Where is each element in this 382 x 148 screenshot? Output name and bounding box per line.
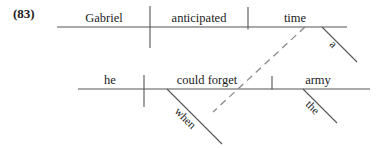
example-number: (83)	[13, 6, 35, 22]
sentence-diagram: (83) Gabriel anticipated time a he could…	[0, 0, 382, 148]
modifier-a-slant-line	[322, 27, 357, 62]
word-verb-main: anticipated	[172, 11, 227, 26]
word-object-sub: army	[305, 73, 331, 88]
word-object-main: time	[284, 11, 306, 26]
word-subject-main: Gabriel	[85, 11, 122, 26]
word-subject-sub: he	[104, 73, 116, 88]
dashed-link-line	[213, 27, 305, 112]
word-verb-sub: could forget	[177, 73, 238, 88]
